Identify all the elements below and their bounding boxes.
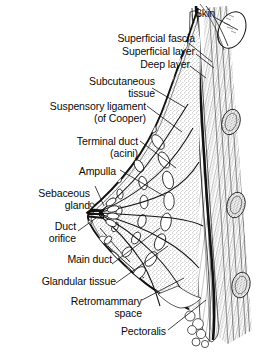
- label-main-duct: Main duct: [8, 254, 112, 266]
- label-suspensory-ligament: Suspensory ligament (of Cooper): [8, 101, 146, 124]
- label-superficial-layer: Superficial layer: [60, 46, 195, 58]
- label-terminal-duct: Terminal duct (acini): [22, 136, 138, 159]
- label-deep-layer: Deep layer: [60, 59, 190, 71]
- label-subcutaneous-tissue: Subcutaneous tissue: [40, 76, 155, 99]
- label-retromammary-space: Retromammary space: [30, 296, 142, 319]
- label-sebaceous-gland: Sebaceous gland: [4, 188, 90, 211]
- label-glandular-tissue: Glandular tissue: [0, 276, 116, 288]
- nipple: [87, 210, 105, 218]
- label-ampulla: Ampulla: [28, 166, 116, 178]
- label-pectoralis: Pectoralis: [70, 326, 166, 338]
- label-superficial-fascia: Superficial fascia: [60, 33, 195, 45]
- label-skin: Skin: [110, 8, 215, 20]
- label-duct-orifice: Duct orifice: [12, 221, 76, 244]
